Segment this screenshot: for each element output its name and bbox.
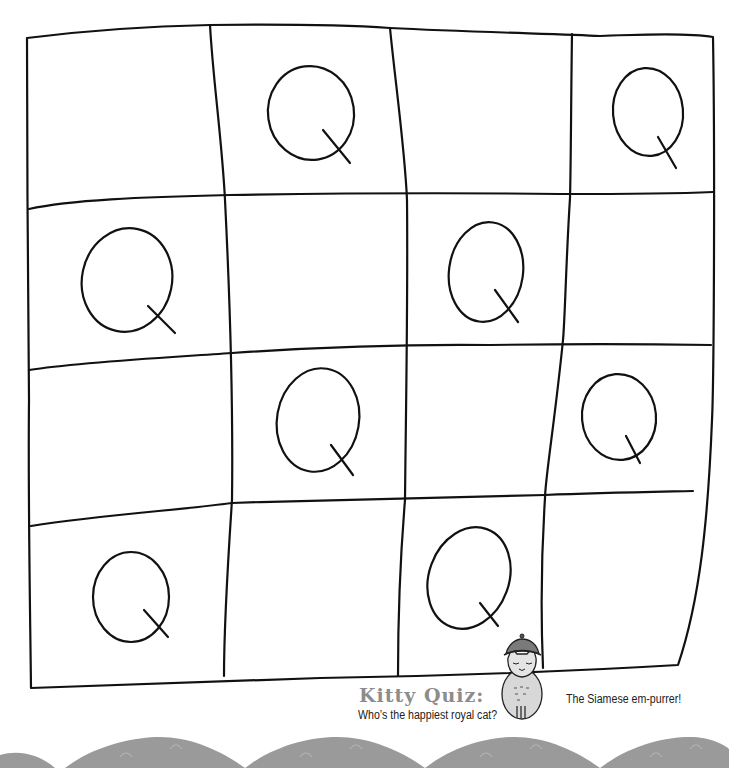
q-letter-r4c3 <box>414 515 525 640</box>
q-letter-r2c1 <box>72 220 182 340</box>
q-letter-r2c3 <box>442 217 529 326</box>
q-letter-r3c2 <box>269 362 368 479</box>
puzzle-grid <box>0 0 729 768</box>
q-letter-r1c4 <box>609 65 686 168</box>
grid-hline-3 <box>31 491 693 526</box>
kitty-quiz-question: Who’s the happiest royal cat? <box>358 708 497 722</box>
kitty-quiz-title: Kitty Quiz: <box>359 684 484 706</box>
cat-emperor-icon <box>490 630 560 722</box>
kitty-quiz-answer: The Siamese em-purrer! <box>566 692 681 706</box>
q-letter-r1c2 <box>262 60 360 165</box>
grid-vline-2 <box>390 28 407 676</box>
q-letter-r4c1 <box>93 552 169 642</box>
grid-frame <box>27 25 714 688</box>
grid-vline-3 <box>542 34 572 668</box>
q-letter-r3c4 <box>578 371 659 463</box>
grid-hline-1 <box>29 192 713 209</box>
grid-hline-2 <box>29 344 711 370</box>
grid-vline-1 <box>210 25 232 676</box>
wave-border <box>0 735 729 768</box>
